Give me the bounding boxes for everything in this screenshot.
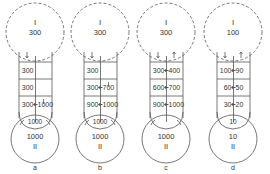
row-left-value: 100 xyxy=(220,67,232,74)
up-arrow-icon xyxy=(240,52,243,58)
row-left-value: 600 xyxy=(153,84,165,91)
compartment-i-value: 300 xyxy=(160,28,173,37)
compartment-ii-value: 1000 xyxy=(158,132,175,141)
row-left-value: 300 xyxy=(22,101,34,108)
down-arrow-icon xyxy=(157,52,160,58)
row-right-value: 400 xyxy=(169,67,181,74)
compartment-ii-value: 1000 xyxy=(27,132,44,141)
row-left-value: 300 xyxy=(22,84,34,91)
diagram-stage: I300300300300100010001000IIaI30030030070… xyxy=(0,0,270,174)
compartment-i-value: 300 xyxy=(29,28,42,37)
table-row: 9001000 xyxy=(153,101,184,108)
table-row: 3001000 xyxy=(22,101,53,108)
compartment-i-label: I xyxy=(232,18,234,27)
row-right-value: 700 xyxy=(169,84,181,91)
compartment-i-label: I xyxy=(34,18,36,27)
row-left-value: 60 xyxy=(224,84,232,91)
table-row: 300 xyxy=(22,84,34,91)
overlap-value: 1000 xyxy=(93,118,108,125)
panel-label: d xyxy=(231,164,235,171)
row-left-value: 900 xyxy=(153,101,165,108)
compartment-i-value: 100 xyxy=(227,28,240,37)
compartment-i-value: 300 xyxy=(94,28,107,37)
table-row: 300 xyxy=(22,67,34,74)
exchange-diagram: I300300300300100010001000IIaI30030030070… xyxy=(0,0,270,174)
panel-label: c xyxy=(164,164,168,171)
compartment-ii-value: 10 xyxy=(229,132,237,141)
compartment-i-label: I xyxy=(99,18,101,27)
return-arrow-icon xyxy=(151,120,181,125)
overlap-value: 1000 xyxy=(28,118,43,125)
row-left-value: 300 xyxy=(153,67,165,74)
row-right-value: 1000 xyxy=(169,101,185,108)
overlap-value: 10 xyxy=(229,118,237,125)
compartment-ii-label: II xyxy=(231,142,235,151)
panel-label: b xyxy=(98,164,102,171)
row-left-value: 300 xyxy=(22,67,34,74)
panel-b: I300300300700900100010001000IIb xyxy=(71,3,129,171)
compartment-ii-label: II xyxy=(164,142,168,151)
panel-a: I300300300300100010001000IIa xyxy=(6,3,64,171)
row-left-value: 30 xyxy=(224,101,232,108)
row-right-value: 1000 xyxy=(38,101,54,108)
table-row: 300 xyxy=(87,67,99,74)
up-arrow-icon xyxy=(173,52,176,58)
table-row: 9001000 xyxy=(87,101,118,108)
compartment-i-label: I xyxy=(165,18,167,27)
row-right-value: 20 xyxy=(236,101,244,108)
row-right-value: 90 xyxy=(236,67,244,74)
down-arrow-icon xyxy=(91,52,94,58)
table-row: 10090 xyxy=(220,67,244,74)
down-arrow-icon xyxy=(224,52,227,58)
compartment-ii-label: II xyxy=(33,142,37,151)
row-left-value: 300 xyxy=(87,67,99,74)
panel-label: a xyxy=(33,164,37,171)
down-arrow-icon xyxy=(26,52,29,58)
row-right-value: 50 xyxy=(236,84,244,91)
compartment-ii-label: II xyxy=(98,142,102,151)
row-right-value: 1000 xyxy=(103,101,119,108)
compartment-ii-value: 1000 xyxy=(92,132,109,141)
panel-d: I10010090605030201010IId xyxy=(204,3,262,171)
row-left-value: 900 xyxy=(87,101,99,108)
row-left-value: 300 xyxy=(87,84,99,91)
panel-c: I30030040060070090010001000IIc xyxy=(137,3,195,171)
